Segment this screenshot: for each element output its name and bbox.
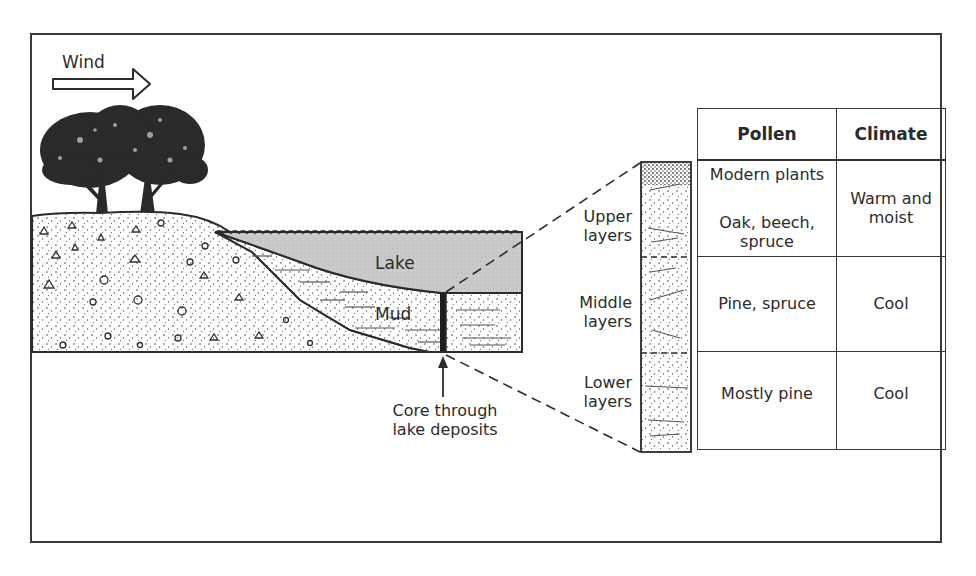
outline-arrow-right-icon bbox=[53, 69, 150, 99]
layer-label-middle: Middle layers bbox=[560, 293, 632, 331]
trees-illustration bbox=[40, 105, 208, 214]
table-row: Pine, spruce Cool bbox=[698, 256, 946, 351]
layer-label-lower: Lower layers bbox=[560, 373, 632, 411]
header-pollen: Pollen bbox=[698, 109, 837, 161]
table-row: Mostly pine Cool bbox=[698, 351, 946, 449]
core-enlarged-column bbox=[641, 162, 691, 452]
climate-cell: Cool bbox=[837, 256, 946, 351]
pollen-cell: Modern plants Oak, beech, spruce bbox=[698, 160, 837, 256]
climate-cell: Warm and moist bbox=[837, 160, 946, 256]
table-row: Modern plants Oak, beech, spruce Warm an… bbox=[698, 160, 946, 256]
core-sample bbox=[440, 293, 446, 352]
pollen-cell: Pine, spruce bbox=[698, 256, 837, 351]
climate-cell: Cool bbox=[837, 351, 946, 449]
mud-label: Mud bbox=[375, 305, 411, 324]
arrow-up-icon bbox=[438, 356, 448, 397]
pollen-climate-table: Pollen Climate Modern plants Oak, beech,… bbox=[697, 108, 946, 450]
pollen-cell: Mostly pine bbox=[698, 351, 837, 449]
layer-label-upper: Upper layers bbox=[560, 207, 632, 245]
wind-label: Wind bbox=[62, 53, 105, 72]
header-climate: Climate bbox=[837, 109, 946, 161]
core-caption: Core through lake deposits bbox=[345, 401, 545, 439]
lake-label: Lake bbox=[375, 254, 415, 273]
